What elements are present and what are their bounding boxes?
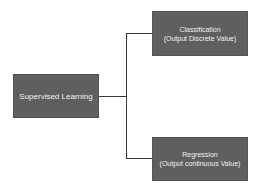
node-classification: Classification (Output Discrete Value) bbox=[152, 11, 248, 56]
node-subtitle: (Output continuous Value) bbox=[160, 159, 241, 168]
connector-vertical-trunk bbox=[126, 33, 127, 159]
connector-to-classification bbox=[126, 33, 152, 34]
connector-root-horizontal bbox=[99, 96, 127, 97]
node-supervised-learning: Supervised Learning bbox=[13, 74, 99, 118]
node-label: Supervised Learning bbox=[19, 92, 92, 101]
node-regression: Regression (Output continuous Value) bbox=[152, 137, 248, 181]
node-title: Classification bbox=[179, 25, 220, 34]
node-subtitle: (Output Discrete Value) bbox=[164, 34, 237, 43]
node-title: Regression bbox=[182, 150, 217, 159]
connector-to-regression bbox=[126, 158, 152, 159]
